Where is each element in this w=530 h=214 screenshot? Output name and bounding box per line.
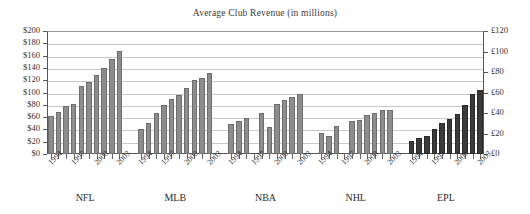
x-axis-tick	[382, 154, 383, 159]
x-axis-tick	[450, 154, 451, 159]
chart-root: Average Club Revenue (in millions) $0$20…	[0, 0, 530, 214]
group-label-nhl: NHL	[318, 192, 394, 203]
y-axis-left-tick-label: $120	[0, 75, 40, 84]
bar	[364, 115, 369, 154]
bar	[161, 105, 166, 154]
x-axis-tick	[179, 154, 180, 159]
y-axis-right-tick	[484, 113, 488, 114]
bar	[424, 136, 429, 154]
bar	[101, 68, 106, 154]
y-axis-left-tick	[43, 154, 47, 155]
y-axis-right-tick-label: £60	[491, 88, 504, 97]
y-axis-right-tick	[484, 134, 488, 135]
bar	[274, 104, 279, 154]
chart-title: Average Club Revenue (in millions)	[0, 8, 530, 18]
x-axis-tick	[89, 154, 90, 159]
x-axis-tick	[292, 154, 293, 159]
group-label-nfl: NFL	[47, 192, 123, 203]
x-axis-tick	[156, 154, 157, 159]
bar	[267, 127, 272, 154]
bar	[282, 100, 287, 154]
x-axis-tick	[246, 154, 247, 159]
bar	[470, 94, 475, 154]
bar	[94, 75, 99, 154]
bar	[48, 116, 53, 154]
x-axis-tick	[360, 154, 361, 159]
bar	[477, 90, 482, 154]
bar	[117, 51, 122, 154]
y-axis-right-tick	[484, 31, 488, 32]
bar	[455, 114, 460, 154]
x-axis-tick	[202, 154, 203, 159]
x-axis-tick	[66, 154, 67, 159]
bar	[447, 119, 452, 154]
group-label-epl: EPL	[408, 192, 484, 203]
x-axis-tick	[473, 154, 474, 159]
bar	[387, 110, 392, 154]
x-axis-tick	[112, 154, 113, 159]
bar	[380, 110, 385, 154]
y-axis-right-tick	[484, 93, 488, 94]
y-axis-left-tick-label: $200	[0, 26, 40, 35]
bar	[432, 129, 437, 154]
y-axis-right-tick-label: £0	[491, 149, 500, 158]
y-axis-left-tick-label: $160	[0, 51, 40, 60]
y-axis-right-tick-label: £100	[491, 47, 508, 56]
x-axis-tick	[269, 154, 270, 159]
bar	[184, 88, 189, 154]
bar	[207, 73, 212, 154]
y-axis-left-tick-label: $0	[0, 149, 40, 158]
bar	[154, 113, 159, 154]
y-axis-left-tick-label: $180	[0, 38, 40, 47]
bar	[63, 106, 68, 154]
y-axis-left-tick-label: $60	[0, 112, 40, 121]
bar	[109, 59, 114, 154]
y-axis-left-tick-label: $20	[0, 137, 40, 146]
y-axis-right-tick-label: £120	[491, 26, 508, 35]
bar	[138, 129, 143, 154]
x-axis-tick	[337, 154, 338, 159]
y-axis-right-tick	[484, 52, 488, 53]
bar	[86, 82, 91, 154]
bar	[199, 78, 204, 154]
y-axis-right-tick-label: £40	[491, 108, 504, 117]
bar	[176, 95, 181, 154]
bar	[244, 118, 249, 154]
bar	[71, 104, 76, 154]
y-axis-left-tick-label: $140	[0, 63, 40, 72]
bar	[228, 124, 233, 154]
bar	[192, 80, 197, 154]
bar	[289, 97, 294, 154]
bar	[319, 133, 324, 154]
y-axis-left-tick-label: $100	[0, 88, 40, 97]
bars-layer	[47, 31, 484, 154]
bar	[357, 120, 362, 154]
bar	[56, 112, 61, 154]
bar	[169, 99, 174, 154]
y-axis-right-tick	[484, 72, 488, 73]
y-axis-right-tick-label: £80	[491, 67, 504, 76]
y-axis-right-tick-label: £20	[491, 129, 504, 138]
y-axis-left-tick-label: $80	[0, 100, 40, 109]
bar	[297, 94, 302, 154]
bar	[409, 141, 414, 154]
y-axis-left-tick-label: $40	[0, 124, 40, 133]
group-label-mlb: MLB	[137, 192, 213, 203]
bar	[462, 105, 467, 154]
bar	[334, 126, 339, 154]
group-label-nba: NBA	[227, 192, 303, 203]
x-axis-tick	[427, 154, 428, 159]
bar	[79, 86, 84, 154]
